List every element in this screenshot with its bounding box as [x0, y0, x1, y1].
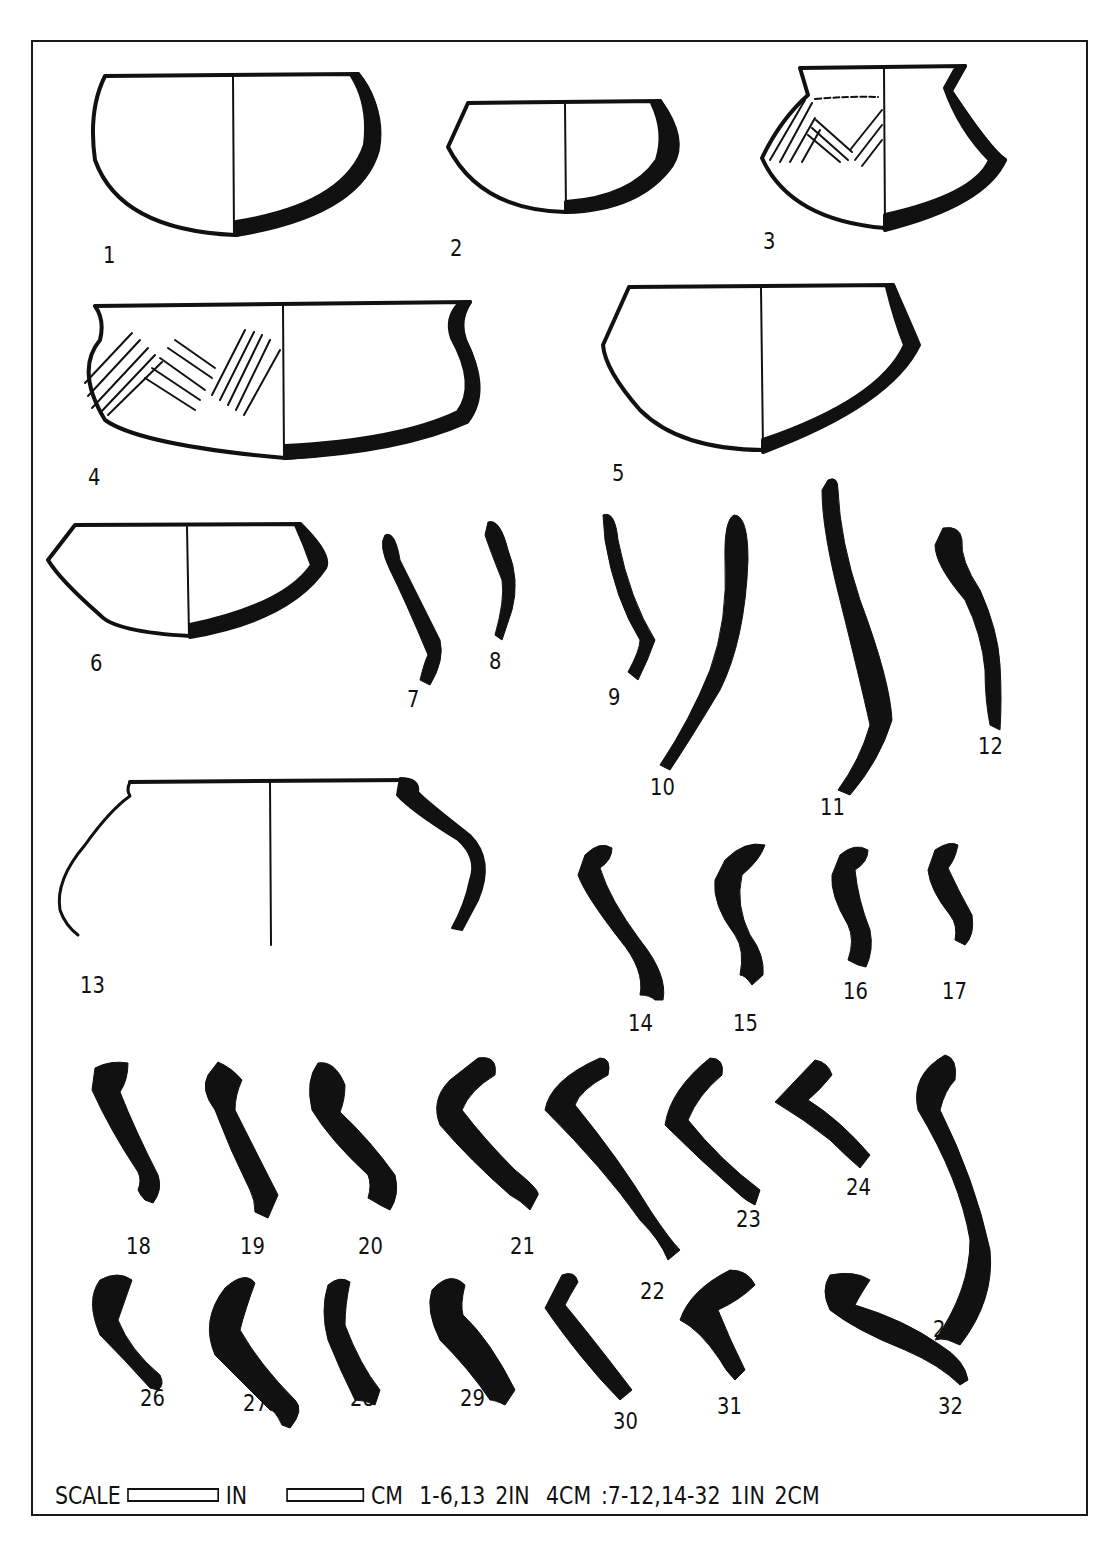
sherd-8 [485, 522, 515, 640]
sherd-21 [437, 1058, 538, 1210]
label-26: 26 [140, 1387, 165, 1410]
label-32: 32 [938, 1395, 963, 1418]
label-2: 2 [450, 237, 462, 260]
scale-group1: 1-6,13 [419, 1481, 485, 1510]
label-23: 23 [736, 1208, 761, 1231]
scale-group2-cm: 2CM [775, 1481, 820, 1510]
label-8: 8 [489, 650, 501, 673]
label-25: 25 [933, 1318, 958, 1341]
label-6: 6 [90, 652, 102, 675]
sherd-30 [545, 1274, 632, 1400]
scale-group1-cm: 4CM [546, 1481, 591, 1510]
label-10: 10 [650, 776, 675, 799]
pottery-drawings [0, 0, 1104, 1541]
label-19: 19 [240, 1235, 265, 1258]
scale-prefix: SCALE [55, 1481, 121, 1510]
vessel-13-drawing [59, 778, 485, 945]
sherd-18 [92, 1062, 160, 1203]
label-1: 1 [103, 244, 115, 267]
label-24: 24 [846, 1176, 871, 1199]
vessel-5-drawing [603, 285, 919, 452]
sherd-14 [578, 845, 664, 1000]
scale-group1-in: 2IN [495, 1481, 529, 1510]
scale-unit-cm: CM [371, 1481, 403, 1510]
sherd-17 [928, 843, 973, 945]
sherd-16 [832, 847, 872, 967]
sherd-15 [715, 844, 765, 985]
label-3: 3 [763, 230, 775, 253]
vessel-1-drawing [93, 74, 379, 235]
label-4: 4 [88, 466, 100, 489]
label-17: 17 [942, 980, 967, 1003]
label-9: 9 [608, 686, 620, 709]
label-5: 5 [612, 462, 624, 485]
sherd-10 [660, 515, 748, 770]
sherd-24 [775, 1060, 870, 1168]
sherd-22 [545, 1058, 680, 1260]
sherd-11 [822, 479, 892, 795]
sherd-26 [93, 1275, 163, 1390]
vessel-4-drawing [85, 302, 479, 458]
label-20: 20 [358, 1235, 383, 1258]
sherd-31 [680, 1270, 755, 1380]
vessel-3-drawing [762, 66, 1005, 230]
label-21: 21 [510, 1235, 535, 1258]
sherd-20 [310, 1063, 397, 1210]
label-28: 28 [350, 1387, 375, 1410]
vessel-6-drawing [48, 524, 326, 637]
scale-bar-inch [127, 1488, 219, 1502]
label-15: 15 [733, 1012, 758, 1035]
label-11: 11 [820, 796, 845, 819]
vessel-2-drawing [448, 101, 678, 212]
sherd-7 [382, 534, 441, 685]
scale-group2-in: 1IN [730, 1481, 764, 1510]
label-31: 31 [717, 1395, 742, 1418]
label-30: 30 [613, 1410, 638, 1433]
sherd-23 [665, 1058, 760, 1205]
label-7: 7 [407, 688, 419, 711]
sherd-25 [917, 1055, 991, 1345]
scale-legend: SCALE IN CM 1-6,13 2IN 4CM :7-12,14-32 1… [55, 1480, 820, 1510]
sherd-19 [205, 1062, 278, 1218]
scale-bar-cm [286, 1488, 364, 1502]
label-29: 29 [460, 1387, 485, 1410]
label-14: 14 [628, 1012, 653, 1035]
label-27: 27 [243, 1392, 268, 1415]
label-16: 16 [843, 980, 868, 1003]
scale-unit-in: IN [226, 1481, 247, 1510]
sherd-9 [603, 514, 655, 680]
label-18: 18 [126, 1235, 151, 1258]
label-12: 12 [978, 735, 1003, 758]
sherd-12 [935, 528, 1001, 731]
label-22: 22 [640, 1280, 665, 1303]
label-13: 13 [80, 974, 105, 997]
scale-group2: :7-12,14-32 [601, 1481, 721, 1510]
